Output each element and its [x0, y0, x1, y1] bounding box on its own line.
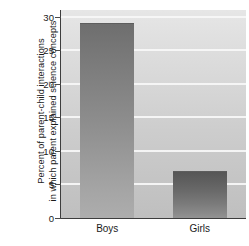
y-axis-title: Percent of parent-child interactions in …: [0, 0, 34, 222]
y-tick-mark-10: [55, 151, 61, 152]
bar-boys: [80, 23, 134, 218]
y-tick-mark-30: [55, 17, 61, 18]
x-tick-label-boys: Boys: [96, 223, 118, 234]
x-axis-line: [60, 218, 246, 219]
y-tick-label-0: 0: [34, 213, 54, 224]
y-tick-mark-15: [55, 117, 61, 118]
y-tick-label-25: 25: [34, 45, 54, 56]
y-tick-mark-20: [55, 84, 61, 85]
y-tick-mark-25: [55, 50, 61, 51]
x-tick-label-girls: Girls: [189, 223, 210, 234]
y-tick-mark-0: [55, 218, 61, 219]
plot-area: [61, 10, 246, 218]
y-tick-label-10: 10: [34, 145, 54, 156]
y-tick-label-15: 15: [34, 112, 54, 123]
y-axis-tick-labels: 051015202530: [34, 0, 54, 246]
bar-chart-figure: Percent of parent-child interactions in …: [0, 0, 249, 246]
bar-girls: [173, 171, 227, 218]
y-tick-label-20: 20: [34, 78, 54, 89]
y-tick-label-30: 30: [34, 11, 54, 22]
y-tick-label-5: 5: [34, 179, 54, 190]
gridline-30: [61, 16, 246, 18]
y-tick-mark-5: [55, 184, 61, 185]
